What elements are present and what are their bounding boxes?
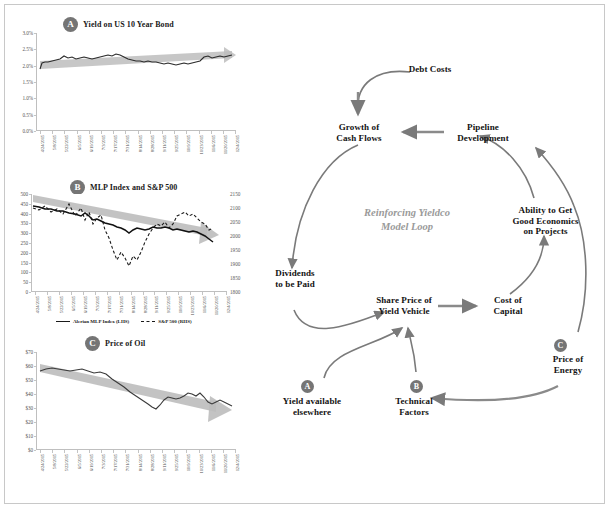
chart-b-ytick: 0	[26, 289, 29, 295]
node-growth-of-cash-flows: Growth of Cash Flows	[320, 122, 398, 143]
chart-a-plot-area: 3.0% 2.5% 2.0% 1.5% 1.0% 0.5% 0.0% 4/24/…	[36, 33, 236, 131]
chart-a-y-axis	[36, 33, 37, 131]
chart-c-xtick: 5/22/2015	[64, 454, 69, 471]
node-price-of-energy: Price of Energy	[540, 354, 596, 375]
chart-b-ytick: 400	[21, 211, 28, 217]
legend-label: S&P 500 (RHS)	[158, 319, 191, 324]
chart-b-ytick-right: 2150	[230, 191, 240, 197]
chart-c-xtick: 12/4/2015	[235, 454, 240, 471]
chart-a-xtick: 11/6/2015	[211, 135, 216, 152]
chart-c-xtick: 7/17/2015	[113, 454, 118, 471]
yieldco-model-loop-diagram: Debt Costs Growth of Cash Flows Pipeline…	[258, 10, 603, 480]
badge-price-of-energy: C	[554, 339, 567, 352]
chart-b-ytick-right: 1950	[230, 247, 240, 253]
chart-c-xtick: 7/3/2015	[101, 454, 106, 469]
chart-b-xtick: 7/31/2015	[119, 296, 124, 313]
chart-b-xtick: 7/3/2015	[95, 296, 100, 311]
chart-c-xtick: 7/31/2015	[125, 454, 130, 471]
chart-a-xtick: 7/17/2015	[113, 135, 118, 152]
node-technical-factors: Technical Factors	[376, 396, 452, 417]
chart-c-ytick: $50	[26, 377, 33, 383]
chart-c-xtick: 5/8/2015	[52, 454, 57, 469]
chart-b-ytick: 50	[23, 279, 28, 285]
chart-c-xtick: 11/6/2015	[211, 454, 216, 471]
chart-c-ytick: $10	[26, 433, 33, 439]
chart-b-legend: Alerian MLP Index (LHS) S&P 500 (RHS)	[56, 319, 192, 324]
chart-panel-price-of-oil: C Price of Oil $70 $60 $50 $40 $30 $20 $…	[0, 330, 258, 505]
chart-a-series-svg	[36, 33, 236, 131]
chart-b-ytick: 350	[21, 220, 28, 226]
chart-b-ytick-right: 2050	[230, 219, 240, 225]
chart-b-xtick: 10/23/2015	[190, 296, 195, 315]
chart-b-ytick: 150	[21, 260, 28, 266]
chart-c-badge: C	[85, 336, 100, 351]
node-pipeline-development: Pipeline Development	[444, 122, 522, 143]
node-debt-costs: Debt Costs	[390, 64, 470, 75]
chart-a-xtick: 4/24/2015	[40, 135, 45, 152]
node-ability-to-get-good-economics: Ability to Get Good Economics on Project…	[498, 205, 593, 237]
chart-b-xtick: 10/9/2015	[178, 296, 183, 313]
chart-a-xtick: 12/4/2015	[235, 135, 240, 152]
chart-c-ytick: $0	[28, 447, 33, 453]
chart-b-xtick: 9/11/2015	[154, 296, 159, 313]
chart-a-ytick: 0.5%	[23, 112, 33, 118]
chart-a-xtick: 8/28/2015	[150, 135, 155, 152]
chart-b-xtick: 8/28/2015	[143, 296, 148, 313]
chart-c-ytick: $60	[26, 363, 33, 369]
chart-a-xtick: 6/19/2015	[89, 135, 94, 152]
node-yield-available-elsewhere: Yield available elsewhere	[266, 396, 358, 417]
chart-panel-yield-us-10-year-bond: A Yield on US 10 Year Bond 3.0% 2.5% 2.0…	[0, 0, 258, 175]
chart-b-ytick-right: 1900	[230, 261, 240, 267]
chart-b-xtick: 9/25/2015	[166, 296, 171, 313]
legend-item-alerian-mlp-index: Alerian MLP Index (LHS)	[56, 319, 129, 324]
chart-c-xtick: 10/23/2015	[199, 454, 204, 473]
chart-b-title-row: B MLP Index and S&P 500	[70, 180, 177, 195]
chart-c-xtick: 6/19/2015	[89, 454, 94, 471]
chart-a-xtick: 6/5/2015	[77, 135, 82, 150]
chart-c-x-axis	[36, 449, 236, 450]
chart-c-xtick: 6/5/2015	[77, 454, 82, 469]
chart-b-y-axis-left	[31, 194, 32, 292]
chart-b-xtick: 11/20/2015	[214, 296, 219, 315]
chart-a-xtick: 5/8/2015	[52, 135, 57, 150]
legend-item-sp-500: S&P 500 (RHS)	[141, 319, 191, 324]
node-share-price-of-yield-vehicle: Share Price of Yield Vehicle	[366, 295, 442, 316]
chart-a-title: Yield on US 10 Year Bond	[83, 20, 174, 29]
chart-c-xtick: 9/11/2015	[162, 454, 167, 471]
chart-b-plot-area: 500 450 400 350 300 250 200 150 100 50 0…	[31, 194, 227, 292]
legend-dashed-line-icon	[141, 321, 155, 322]
chart-b-series-svg	[31, 194, 227, 292]
chart-b-xtick: 6/5/2015	[71, 296, 76, 311]
chart-b-ytick-right: 2100	[230, 205, 240, 211]
chart-a-xtick: 9/11/2015	[162, 135, 167, 152]
chart-a-xtick: 5/22/2015	[64, 135, 69, 152]
node-cost-of-capital: Cost of Capital	[478, 295, 538, 316]
chart-b-ytick-right: 1800	[230, 289, 240, 295]
chart-b-x-axis	[31, 291, 227, 292]
chart-a-ytick: 3.0%	[23, 30, 33, 36]
chart-b-ytick-right: 2000	[230, 233, 240, 239]
chart-c-xtick: 4/24/2015	[40, 454, 45, 471]
chart-b-ytick: 250	[21, 240, 28, 246]
chart-a-badge: A	[63, 17, 78, 32]
chart-b-xtick: 8/14/2015	[131, 296, 136, 313]
chart-c-title-row: C Price of Oil	[85, 336, 145, 351]
chart-a-title-row: A Yield on US 10 Year Bond	[63, 17, 174, 32]
chart-b-xtick: 7/17/2015	[107, 296, 112, 313]
chart-a-xtick: 10/23/2015	[199, 135, 204, 154]
chart-c-ytick: $30	[26, 405, 33, 411]
chart-c-ytick: $70	[26, 349, 33, 355]
chart-b-xtick: 12/4/2015	[226, 296, 231, 313]
badge-technical-factors: B	[410, 380, 423, 393]
chart-b-xtick: 6/19/2015	[83, 296, 88, 313]
legend-solid-line-icon	[56, 321, 70, 322]
chart-b-ytick: 100	[21, 269, 28, 275]
chart-b-badge: B	[70, 180, 85, 195]
chart-b-xtick: 4/24/2015	[35, 296, 40, 313]
chart-c-xtick: 11/20/2015	[223, 454, 228, 473]
chart-panel-mlp-index-and-sp500: B MLP Index and S&P 500 500 450 400 350 …	[0, 172, 258, 327]
chart-c-xtick: 8/28/2015	[150, 454, 155, 471]
chart-a-ytick: 1.0%	[23, 95, 33, 101]
chart-c-xtick: 9/25/2015	[174, 454, 179, 471]
chart-a-ytick: 1.5%	[23, 79, 33, 85]
